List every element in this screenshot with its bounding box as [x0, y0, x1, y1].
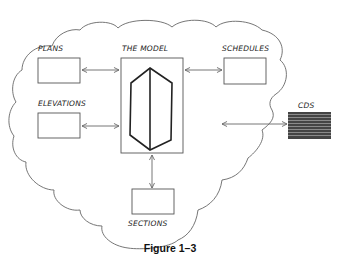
- diagram-canvas: PLANS ELEVATIONS THE MODEL SCHEDULES SEC…: [0, 0, 340, 256]
- elevations-label: ELEVATIONS: [38, 99, 86, 108]
- cds-label: CDS: [298, 101, 314, 110]
- schedules-label: SCHEDULES: [222, 44, 269, 53]
- sections-label: SECTIONS: [128, 219, 167, 228]
- plans-label: PLANS: [38, 44, 63, 53]
- schedules-box: [224, 58, 266, 84]
- plans-box: [38, 58, 80, 83]
- elevations-box: [38, 113, 80, 138]
- cds-document-stack-icon: [288, 112, 331, 139]
- sections-box: [132, 189, 174, 214]
- model-label: THE MODEL: [122, 44, 168, 53]
- figure-caption: Figure 1–3: [144, 242, 197, 254]
